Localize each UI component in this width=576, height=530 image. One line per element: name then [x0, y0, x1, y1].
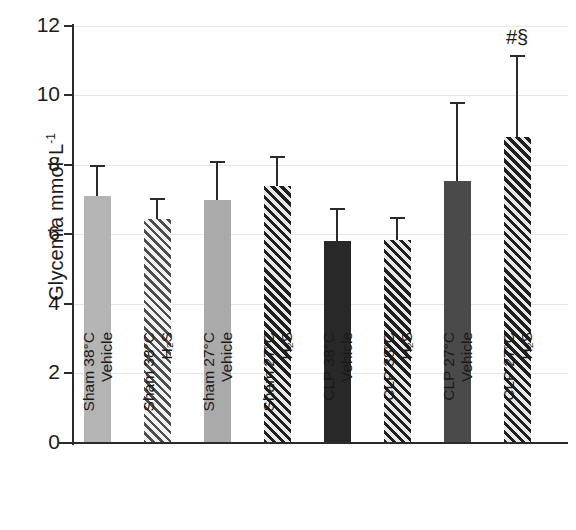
x-label-line2: H₂S [518, 332, 535, 452]
error-bar-cap-clp-38-vehicle [330, 208, 345, 210]
x-axis-spine [58, 442, 568, 444]
y-axis-spine [72, 24, 74, 445]
x-label-clp-38-vehicle: CLP 38°C Vehicle [320, 332, 338, 452]
x-label-line2: H₂S [398, 332, 415, 452]
error-bar-cap-sham-27-h2s [270, 156, 285, 158]
x-label-line1: CLP 38°C [320, 332, 337, 401]
x-label-sham-27-h2s: Sham 27°C H₂S [260, 332, 278, 452]
error-bar-stem-clp-27-h2s [516, 57, 518, 137]
glycemia-bar-chart: Glycemia mmol·L-1 12 10 8 6 4 2 0 [0, 0, 576, 530]
x-label-line1: Sham 38°C [80, 332, 97, 411]
gridline-8 [72, 165, 568, 166]
error-bar-cap-sham-38-vehicle [90, 165, 105, 167]
x-label-line1: Sham 27°C [260, 332, 277, 411]
x-label-line2: H₂S [278, 332, 295, 452]
x-label-sham-38-vehicle: Sham 38°C Vehicle [80, 332, 98, 452]
error-bar-stem-sham-27-vehicle [216, 163, 218, 199]
x-label-line1: CLP 38°C [380, 332, 397, 401]
gridline-10 [72, 95, 568, 96]
x-label-line1: Sham 27°C [200, 332, 217, 411]
y-tick-label-4: 4 [20, 292, 60, 313]
y-axis-title-exponent: -1 [44, 133, 58, 144]
y-tick-label-10: 10 [20, 83, 60, 104]
y-tick-label-2: 2 [20, 361, 60, 382]
y-tick-label-0: 0 [20, 431, 60, 452]
x-label-line2: Vehicle [338, 332, 355, 452]
error-bar-stem-sham-27-h2s [276, 158, 278, 186]
x-label-clp-38-h2s: CLP 38°C H₂S [380, 332, 398, 452]
y-tick-label-8: 8 [20, 153, 60, 174]
x-label-line2: H₂S [158, 332, 175, 452]
error-bar-stem-clp-38-h2s [396, 219, 398, 240]
significance-mark-clp-27-h2s: #§ [487, 26, 547, 49]
error-bar-cap-sham-27-vehicle [210, 161, 225, 163]
y-tick-label-6: 6 [20, 222, 60, 243]
x-label-line2: Vehicle [458, 332, 475, 452]
error-bar-cap-clp-27-h2s [510, 55, 525, 57]
error-bar-stem-sham-38-vehicle [96, 167, 98, 197]
error-bar-cap-sham-38-h2s [150, 198, 165, 200]
x-label-line1: CLP 27°C [440, 332, 457, 401]
x-label-line1: Sham 38°C [140, 332, 157, 411]
error-bar-cap-clp-38-h2s [390, 217, 405, 219]
x-label-clp-27-vehicle: CLP 27°C Vehicle [440, 332, 458, 452]
error-bar-stem-clp-27-vehicle [456, 104, 458, 180]
error-bar-cap-clp-27-vehicle [450, 102, 465, 104]
x-label-sham-38-h2s: Sham 38°C H₂S [140, 332, 158, 452]
error-bar-stem-sham-38-h2s [156, 200, 158, 219]
x-label-sham-27-vehicle: Sham 27°C Vehicle [200, 332, 218, 452]
x-label-line2: Vehicle [98, 332, 115, 452]
x-label-line1: CLP 27°C [500, 332, 517, 401]
x-label-clp-27-h2s: CLP 27°C H₂S [500, 332, 518, 452]
x-label-line2: Vehicle [218, 332, 235, 452]
error-bar-stem-clp-38-vehicle [336, 210, 338, 241]
y-tick-label-12: 12 [20, 14, 60, 35]
